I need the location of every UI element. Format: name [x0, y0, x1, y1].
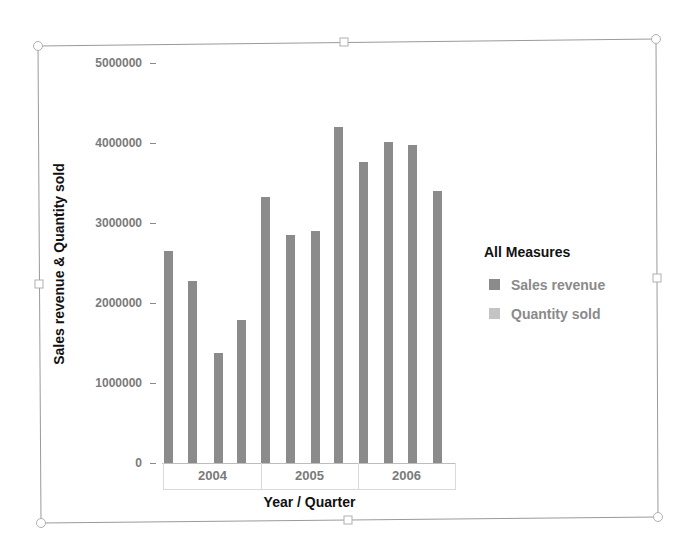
- resize-handle-bottom-right[interactable]: [654, 513, 663, 522]
- x-group-label: 2006: [358, 463, 456, 490]
- legend-swatch-icon: [489, 279, 500, 290]
- y-tick-mark: [150, 383, 156, 384]
- bar-sales-revenue[interactable]: [164, 251, 173, 463]
- bar-sales-revenue[interactable]: [261, 197, 270, 463]
- legend-item-label: Sales revenue: [511, 277, 605, 293]
- legend-swatch-icon: [489, 308, 500, 319]
- resize-handle-right[interactable]: [653, 274, 661, 282]
- resize-handle-top-left[interactable]: [34, 42, 43, 51]
- y-tick-mark: [150, 303, 156, 304]
- y-tick-label: 5000000: [42, 56, 142, 70]
- x-group-label: 2005: [261, 463, 359, 490]
- y-tick-mark: [150, 223, 156, 224]
- bar-sales-revenue[interactable]: [384, 142, 393, 463]
- bar-sales-revenue[interactable]: [408, 145, 417, 463]
- y-axis-title: Sales revenue & Quantity sold: [51, 163, 67, 365]
- bar-sales-revenue[interactable]: [286, 235, 295, 463]
- y-tick-label: 3000000: [42, 216, 142, 230]
- bar-sales-revenue[interactable]: [237, 320, 246, 463]
- y-tick-label: 2000000: [42, 296, 142, 310]
- y-tick-label: 1000000: [42, 376, 142, 390]
- bar-sales-revenue[interactable]: [214, 353, 223, 463]
- legend-item-label: Quantity sold: [511, 306, 600, 322]
- y-tick-mark: [150, 463, 156, 464]
- bar-sales-revenue[interactable]: [359, 162, 368, 463]
- bar-sales-revenue[interactable]: [188, 281, 197, 463]
- resize-handle-top[interactable]: [340, 38, 348, 46]
- y-tick-mark: [150, 143, 156, 144]
- legend-title: All Measures: [484, 244, 570, 260]
- resize-handle-bottom[interactable]: [344, 516, 352, 524]
- x-group-label: 2004: [163, 463, 262, 490]
- resize-handle-top-right[interactable]: [652, 35, 661, 44]
- resize-handle-left[interactable]: [35, 280, 43, 288]
- bar-sales-revenue[interactable]: [311, 231, 320, 463]
- y-tick-label: 4000000: [42, 136, 142, 150]
- bar-sales-revenue[interactable]: [433, 191, 442, 463]
- x-axis-title: Year / Quarter: [163, 494, 456, 510]
- resize-handle-bottom-left[interactable]: [37, 519, 46, 528]
- y-tick-mark: [150, 63, 156, 64]
- bar-sales-revenue[interactable]: [334, 127, 343, 463]
- y-tick-label: 0: [42, 456, 142, 470]
